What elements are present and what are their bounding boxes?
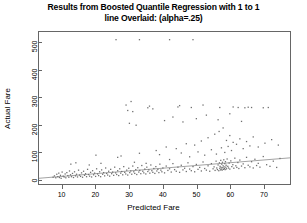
data-point — [127, 110, 128, 111]
data-point — [249, 166, 250, 167]
data-point — [106, 173, 107, 174]
chart-title-line-2: line Overlaid: (alpha=.25) — [0, 13, 307, 24]
x-tick-label: 10 — [58, 191, 66, 198]
data-point — [218, 170, 219, 171]
data-point — [166, 146, 167, 147]
x-axis-title-label: Predicted Fare — [127, 203, 179, 212]
data-point — [129, 172, 130, 173]
data-point — [238, 107, 239, 108]
data-point — [65, 173, 66, 174]
data-point — [225, 167, 226, 168]
data-point — [221, 164, 222, 165]
data-point — [151, 170, 152, 171]
data-point — [74, 171, 75, 172]
data-point — [112, 171, 113, 172]
data-point — [249, 145, 250, 146]
data-point — [95, 155, 96, 156]
data-point — [206, 170, 207, 171]
data-point — [169, 39, 170, 40]
x-tick-label: 30 — [125, 191, 133, 198]
data-point — [108, 171, 109, 172]
data-point — [230, 160, 231, 161]
data-point — [56, 174, 57, 175]
data-point — [142, 171, 143, 172]
data-point — [254, 159, 255, 160]
data-point — [222, 127, 223, 128]
data-point — [233, 142, 234, 143]
data-point — [70, 174, 71, 175]
data-point — [266, 164, 267, 165]
data-point — [229, 135, 230, 136]
data-point — [59, 177, 60, 178]
data-point — [253, 136, 254, 137]
chart-figure: Results from Boosted Quantile Regression… — [0, 0, 307, 223]
data-point — [127, 174, 128, 175]
data-point — [115, 172, 116, 173]
data-point — [187, 162, 188, 163]
data-point — [176, 171, 177, 172]
data-point — [152, 172, 153, 173]
data-point — [162, 167, 163, 168]
data-point — [204, 168, 205, 169]
data-point — [268, 107, 269, 108]
data-point — [88, 174, 89, 175]
x-tick-mark — [197, 185, 198, 189]
data-point — [251, 107, 252, 108]
data-point — [222, 162, 223, 163]
data-point — [241, 121, 242, 122]
data-point — [52, 177, 53, 178]
x-axis: 10203040506070 — [38, 185, 291, 201]
data-point — [137, 167, 138, 168]
data-point — [155, 166, 156, 167]
x-tick-mark — [230, 185, 231, 189]
data-point — [70, 164, 71, 165]
data-point — [201, 170, 202, 171]
data-point — [149, 106, 150, 107]
data-point — [182, 169, 183, 170]
data-point — [132, 111, 133, 112]
data-point — [154, 173, 155, 174]
data-point — [182, 121, 183, 122]
data-point — [199, 167, 200, 168]
data-point — [125, 104, 126, 105]
data-point — [54, 175, 55, 176]
data-point — [90, 172, 91, 173]
data-point — [179, 105, 180, 106]
data-point — [55, 177, 56, 178]
data-point — [259, 167, 260, 168]
data-point — [148, 169, 149, 170]
data-point — [228, 167, 229, 168]
data-point — [100, 176, 101, 177]
data-point — [75, 175, 76, 176]
data-point — [136, 174, 137, 175]
data-point — [226, 168, 227, 169]
data-point — [172, 116, 173, 117]
data-point — [217, 169, 218, 170]
data-point — [125, 173, 126, 174]
data-point — [147, 171, 148, 172]
data-point — [85, 173, 86, 174]
data-point — [76, 174, 77, 175]
data-point — [147, 107, 148, 108]
data-point — [246, 157, 247, 158]
data-point — [233, 168, 234, 169]
data-point — [153, 168, 154, 169]
data-point — [176, 148, 177, 149]
data-point — [224, 169, 225, 170]
data-point — [60, 175, 61, 176]
data-point — [139, 153, 140, 154]
data-point — [248, 107, 249, 108]
data-point — [221, 170, 222, 171]
data-point — [217, 164, 218, 165]
data-point — [111, 173, 112, 174]
data-point — [172, 163, 173, 164]
data-point — [134, 162, 135, 163]
data-point — [146, 163, 147, 164]
data-point — [141, 165, 142, 166]
data-point — [194, 171, 195, 172]
data-point — [104, 175, 105, 176]
data-point — [197, 151, 198, 152]
data-point — [144, 168, 145, 169]
data-point — [118, 175, 119, 176]
data-point — [209, 171, 210, 172]
